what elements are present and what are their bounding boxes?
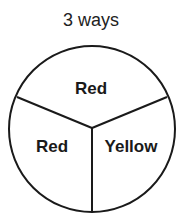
diagram-title: 3 ways xyxy=(63,10,119,30)
spinner-diagram: 3 ways Red Yellow Red xyxy=(0,0,183,222)
section-label-right: Yellow xyxy=(105,137,159,156)
section-label-top: Red xyxy=(75,79,107,98)
section-label-left: Red xyxy=(36,137,68,156)
